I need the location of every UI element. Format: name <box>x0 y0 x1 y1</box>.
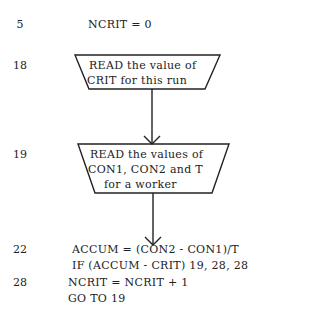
statement-ncrit-increment: NCRIT = NCRIT + 1 <box>68 276 189 289</box>
statement-goto: GO TO 19 <box>68 292 126 305</box>
box2-line1: READ the values of <box>90 148 204 161</box>
box1-line1: READ the value of <box>89 59 197 72</box>
box1-line2: CRIT for this run <box>87 74 187 87</box>
statement-accum: ACCUM = (CON2 - CON1)/T <box>72 243 239 256</box>
statement-if: IF (ACCUM - CRIT) 19, 28, 28 <box>72 259 248 272</box>
box2-line3: for a worker <box>104 178 177 191</box>
box2-line2: CON1, CON2 and T <box>88 163 203 176</box>
